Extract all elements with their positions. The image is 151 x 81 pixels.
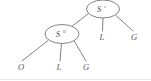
edge-inner-to-leaf-g [75, 42, 87, 62]
leaf-label-g-lower: G [83, 62, 90, 72]
leaf-label-l-upper: L [99, 32, 105, 42]
leaf-label-l-lower: L [56, 62, 62, 72]
edge-inner-to-leaf-l [60, 44, 62, 62]
node-root-ellipse [87, 0, 120, 18]
parse-tree-figure: S s S 0 O L G L G [0, 0, 151, 81]
leaf-label-o: O [18, 62, 24, 72]
node-inner-label: S [56, 30, 60, 39]
node-inner-ellipse [45, 25, 79, 44]
tree-diagram-canvas: S s S 0 O L G L G [0, 0, 151, 81]
edge-root-to-inner-node [71, 14, 89, 28]
edge-root-to-leaf-l [103, 18, 104, 31]
edge-inner-to-leaf-o [22, 41, 48, 62]
edge-root-to-leaf-g [116, 16, 133, 32]
node-root-label: S [97, 5, 101, 14]
leaf-label-g-upper: G [131, 32, 138, 42]
node-root-superscript: s [104, 4, 106, 9]
